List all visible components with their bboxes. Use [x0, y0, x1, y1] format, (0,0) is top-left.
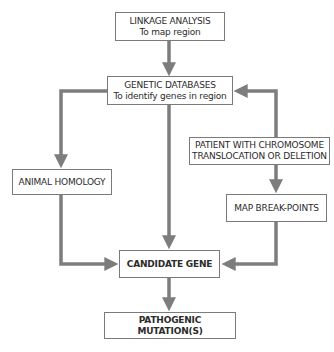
arrow-animal-homology-to-candidate-gene	[61, 195, 112, 264]
node-genetic-databases: GENETIC DATABASES To identify genes in r…	[107, 76, 233, 105]
node-animal-homology: ANIMAL HOMOLOGY	[12, 169, 112, 195]
node-genetic-db-subtitle: To identify genes in region	[113, 91, 226, 102]
arrow-map-breakpoints-to-candidate-gene	[228, 222, 276, 264]
node-genetic-db-title: GENETIC DATABASES	[124, 80, 216, 91]
node-linkage-title: LINKAGE ANALYSIS	[130, 16, 211, 27]
node-candidate-gene: CANDIDATE GENE	[119, 250, 220, 278]
node-candidate-gene-title: CANDIDATE GENE	[127, 259, 213, 270]
node-linkage-subtitle: To map region	[139, 27, 200, 38]
node-animal-homology-title: ANIMAL HOMOLOGY	[19, 177, 106, 188]
arrow-patient-to-genetic-db	[240, 91, 276, 137]
node-linkage-analysis: LINKAGE ANALYSIS To map region	[115, 12, 225, 41]
arrow-genetic-db-to-animal-homology	[61, 91, 107, 162]
node-patient-line1: PATIENT WITH CHROMOSOME	[195, 140, 324, 151]
node-pathogenic-mutations: PATHOGENIC MUTATION(S)	[104, 312, 236, 339]
node-map-breakpoints: MAP BREAK-POINTS	[226, 194, 327, 222]
node-pathogenic-title: PATHOGENIC MUTATION(S)	[105, 315, 235, 337]
node-patient-line2: TRANSLOCATION OR DELETION	[192, 151, 327, 162]
node-map-breakpoints-title: MAP BREAK-POINTS	[234, 203, 319, 214]
node-patient: PATIENT WITH CHROMOSOME TRANSLOCATION OR…	[189, 137, 330, 165]
